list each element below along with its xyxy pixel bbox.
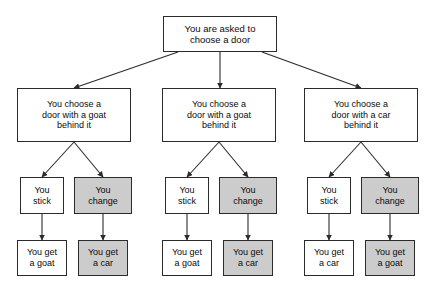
outcome-node-stick-1: You get a goat xyxy=(17,240,67,276)
edge-choice-3-to-change xyxy=(361,142,390,177)
edge-choice-1-to-change xyxy=(74,142,103,177)
action-node-stick-2: You stick xyxy=(165,177,209,214)
action-node-stick-3: You stick xyxy=(307,177,351,214)
outcome-node-change-3: You get a goat xyxy=(365,240,415,276)
choice-node-2: You choose a door with a goat behind it xyxy=(162,88,276,142)
action-node-change-1: You change xyxy=(74,177,132,214)
choice-node-3: You choose a door with a car behind it xyxy=(304,88,418,142)
edge-choice-2-to-stick xyxy=(187,142,219,177)
action-node-change-2: You change xyxy=(219,177,277,214)
edge-choice-3-to-stick xyxy=(329,142,361,177)
root-node: You are asked to choose a door xyxy=(163,16,277,52)
outcome-node-change-1: You get a car xyxy=(78,240,128,276)
decision-tree-diagram: You are asked to choose a door You choos… xyxy=(0,0,427,292)
edge-choice-2-to-change xyxy=(219,142,248,177)
outcome-node-change-2: You get a car xyxy=(223,240,273,276)
choice-node-1: You choose a door with a goat behind it xyxy=(17,88,131,142)
outcome-node-stick-2: You get a goat xyxy=(162,240,212,276)
edge-root-to-choice-3 xyxy=(262,52,361,88)
edge-choice-1-to-stick xyxy=(42,142,74,177)
action-node-stick-1: You stick xyxy=(20,177,64,214)
edge-root-to-choice-1 xyxy=(74,52,178,88)
outcome-node-stick-3: You get a car xyxy=(304,240,354,276)
action-node-change-3: You change xyxy=(361,177,419,214)
